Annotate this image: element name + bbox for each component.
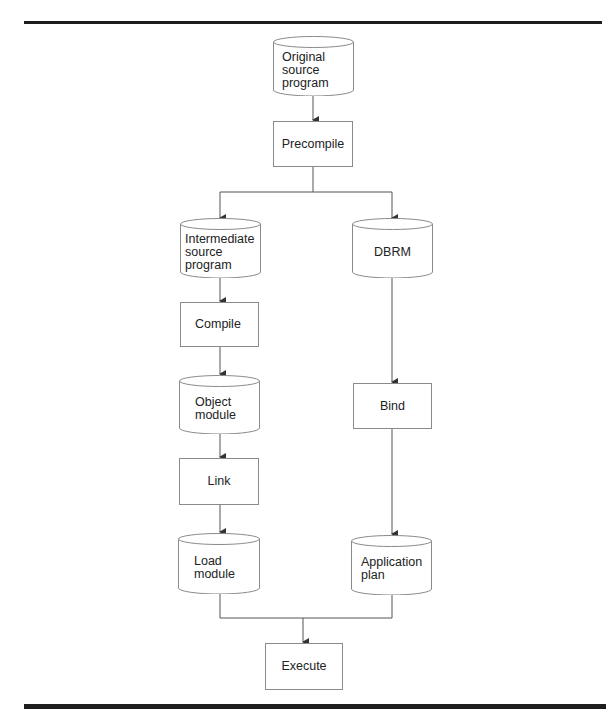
node-original-source: Original source program bbox=[273, 36, 354, 96]
node-label: Link bbox=[180, 475, 258, 488]
node-application-plan: Application plan bbox=[351, 535, 432, 595]
node-bind: Bind bbox=[353, 383, 432, 429]
node-label: Bind bbox=[354, 400, 431, 413]
node-object-module: Object module bbox=[179, 375, 260, 434]
node-label: Intermediate source program bbox=[180, 233, 254, 272]
node-label: Compile bbox=[181, 318, 241, 331]
node-link: Link bbox=[179, 458, 259, 505]
node-label: Load module bbox=[178, 555, 235, 581]
bottom-rule bbox=[24, 704, 606, 709]
connector-layer bbox=[0, 0, 607, 720]
node-label: Precompile bbox=[274, 138, 352, 151]
node-label: Application plan bbox=[351, 556, 422, 582]
node-label: Original source program bbox=[273, 51, 329, 90]
node-precompile: Precompile bbox=[273, 121, 353, 167]
node-compile: Compile bbox=[180, 302, 259, 347]
node-label: Execute bbox=[266, 660, 342, 673]
node-execute: Execute bbox=[265, 643, 343, 690]
node-label: DBRM bbox=[352, 246, 433, 259]
node-intermediate-source: Intermediate source program bbox=[180, 218, 261, 278]
node-load-module: Load module bbox=[178, 533, 260, 594]
node-label: Object module bbox=[179, 396, 236, 422]
node-dbrm: DBRM bbox=[352, 218, 433, 278]
